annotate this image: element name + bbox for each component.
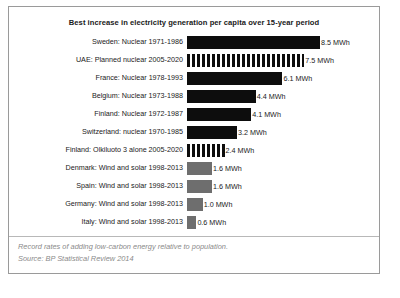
bar-wrapper: 8.5 MWh — [187, 36, 350, 49]
bar-row: Sweden: Nuclear 1971-19868.5 MWh — [9, 34, 379, 52]
bar-category-label: Germany: Wind and solar 1998-2013 — [13, 199, 183, 208]
bar — [187, 72, 282, 85]
bar-wrapper: 4.4 MWh — [187, 90, 286, 103]
bar-value-label: 4.4 MWh — [257, 92, 286, 101]
bar-category-label: Belgium: Nuclear 1973-1988 — [13, 91, 183, 100]
chart-footer: Record rates of adding low-carbon energy… — [18, 241, 368, 265]
bar-wrapper: 2.4 MWh — [187, 144, 254, 157]
bar-value-label: 1.0 MWh — [204, 200, 233, 209]
bar — [187, 144, 225, 157]
bar-value-label: 3.2 MWh — [238, 128, 267, 137]
bar-category-label: France: Nuclear 1978-1993 — [13, 73, 183, 82]
bar-row: Switzerland: nuclear 1970-19853.2 MWh — [9, 124, 379, 142]
footer-divider — [9, 236, 379, 237]
bar-value-label: 7.5 MWh — [305, 56, 334, 65]
bar-category-label: Finland: Olkiluoto 3 alone 2005-2020 — [13, 145, 183, 154]
bar-row: Finland: Nuclear 1972-19874.1 MWh — [9, 106, 379, 124]
bar-value-label: 0.6 MWh — [197, 218, 226, 227]
bar-row: Spain: Wind and solar 1998-20131.6 MWh — [9, 178, 379, 196]
bar-row: Italy: Wind and solar 1998-20130.6 MWh — [9, 214, 379, 232]
bar-row: UAE: Planned nuclear 2005-20207.5 MWh — [9, 52, 379, 70]
bar-row: Belgium: Nuclear 1973-19884.4 MWh — [9, 88, 379, 106]
bar-chart-plot-area: Sweden: Nuclear 1971-19868.5 MWhUAE: Pla… — [9, 34, 379, 232]
bar — [187, 126, 237, 139]
chart-figure: Best increase in electricity generation … — [8, 6, 380, 274]
bar-value-label: 1.6 MWh — [213, 164, 242, 173]
bar-wrapper: 4.1 MWh — [187, 108, 281, 121]
bar-row: France: Nuclear 1978-19936.1 MWh — [9, 70, 379, 88]
bar — [187, 180, 212, 193]
bar-category-label: Denmark: Wind and solar 1998-2013 — [13, 163, 183, 172]
bar-row: Finland: Olkiluoto 3 alone 2005-20202.4 … — [9, 142, 379, 160]
bar-value-label: 2.4 MWh — [226, 146, 255, 155]
bar — [187, 108, 251, 121]
bar-category-label: UAE: Planned nuclear 2005-2020 — [13, 55, 183, 64]
bar-wrapper: 6.1 MWh — [187, 72, 312, 85]
bar-category-label: Spain: Wind and solar 1998-2013 — [13, 181, 183, 190]
bar-value-label: 1.6 MWh — [213, 182, 242, 191]
bar — [187, 54, 304, 67]
bar-wrapper: 0.6 MWh — [187, 216, 226, 229]
bar-wrapper: 3.2 MWh — [187, 126, 267, 139]
bar-category-label: Switzerland: nuclear 1970-1985 — [13, 127, 183, 136]
bar-category-label: Finland: Nuclear 1972-1987 — [13, 109, 183, 118]
bar — [187, 36, 320, 49]
bar-wrapper: 1.0 MWh — [187, 198, 232, 211]
bar — [187, 216, 196, 229]
footer-source: Source: BP Statistical Review 2014 — [18, 253, 368, 265]
bar — [187, 162, 212, 175]
chart-title: Best increase in electricity generation … — [9, 18, 379, 27]
bar-category-label: Italy: Wind and solar 1998-2013 — [13, 217, 183, 226]
bar-value-label: 6.1 MWh — [283, 74, 312, 83]
bar-value-label: 4.1 MWh — [252, 110, 281, 119]
footer-note: Record rates of adding low-carbon energy… — [18, 241, 368, 253]
bar-category-label: Sweden: Nuclear 1971-1986 — [13, 37, 183, 46]
bar-value-label: 8.5 MWh — [321, 38, 350, 47]
bar — [187, 198, 203, 211]
bar-row: Denmark: Wind and solar 1998-20131.6 MWh — [9, 160, 379, 178]
bar-wrapper: 7.5 MWh — [187, 54, 334, 67]
bar-wrapper: 1.6 MWh — [187, 162, 242, 175]
bar — [187, 90, 256, 103]
bar-row: Germany: Wind and solar 1998-20131.0 MWh — [9, 196, 379, 214]
bar-wrapper: 1.6 MWh — [187, 180, 242, 193]
